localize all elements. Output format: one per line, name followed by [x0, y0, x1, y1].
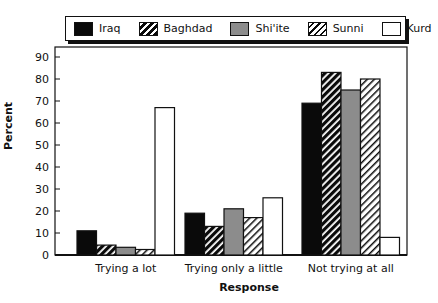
- bar-sunni: [244, 218, 264, 255]
- bar-iraq: [302, 103, 322, 255]
- y-tick-label: 60: [35, 117, 49, 130]
- bar-shiite: [341, 90, 361, 255]
- y-tick-label: 10: [35, 227, 49, 240]
- y-tick-label: 40: [35, 161, 49, 174]
- x-tick-label: Not trying at all: [308, 262, 394, 275]
- y-tick-label: 90: [35, 51, 49, 64]
- bars: [77, 72, 400, 255]
- bar-shiite: [224, 209, 244, 255]
- bar-kurd: [380, 237, 400, 255]
- y-tick-label: 20: [35, 205, 49, 218]
- y-tick-label: 70: [35, 95, 49, 108]
- bar-iraq: [77, 231, 97, 255]
- x-axis-label: Response: [0, 281, 438, 294]
- bar-baghdad: [97, 245, 117, 255]
- bar-iraq: [185, 213, 205, 255]
- bar-sunni: [136, 250, 156, 256]
- plot-area: 0102030405060708090 Trying a lotTrying o…: [0, 0, 438, 303]
- bar-baghdad: [322, 72, 342, 255]
- bar-baghdad: [205, 226, 225, 255]
- y-tick-label: 50: [35, 139, 49, 152]
- y-tick-label: 0: [42, 249, 49, 262]
- y-tick-label: 30: [35, 183, 49, 196]
- bar-kurd: [155, 108, 175, 255]
- x-tick-label: Trying only a little: [184, 262, 283, 275]
- bar-shiite: [116, 247, 136, 255]
- bar-sunni: [361, 79, 381, 255]
- x-tick-labels: Trying a lotTrying only a littleNot tryi…: [94, 262, 394, 275]
- y-tick-label: 80: [35, 73, 49, 86]
- x-tick-label: Trying a lot: [94, 262, 157, 275]
- bar-kurd: [263, 198, 283, 255]
